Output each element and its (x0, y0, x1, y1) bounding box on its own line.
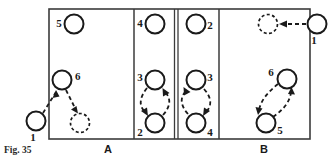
figure-canvas: 5 6 1 4 3 2 (0, 0, 331, 162)
panel-b-group: 1 6 5 (256, 15, 327, 136)
node-a-6[interactable] (53, 71, 72, 90)
node-b-1-label: 1 (311, 34, 317, 46)
arrow-b-6-to-5 (259, 84, 278, 110)
node-b-1-outside[interactable] (308, 15, 327, 34)
node-p2-4[interactable] (146, 15, 165, 34)
node-a-1-outside[interactable] (27, 112, 46, 131)
arrow-a-6-to-target-head (71, 106, 78, 114)
node-a-5[interactable] (65, 15, 84, 34)
panel-a-group: 5 6 1 (27, 15, 90, 143)
figure-page: 5 6 1 4 3 2 (0, 0, 331, 162)
arrow-b-1-to-target-head (279, 21, 287, 28)
panel-label-a: A (104, 143, 112, 155)
panel-3-group: 2 3 4 (182, 15, 214, 138)
node-b-6-label: 6 (268, 66, 274, 78)
node-p2-4-label: 4 (137, 17, 143, 29)
node-p3-3[interactable] (187, 71, 206, 90)
arrow-a-1-to-6-head (53, 90, 60, 98)
node-a-target-ghost[interactable] (71, 114, 90, 133)
node-p3-3-label: 3 (207, 71, 213, 83)
arrow-p3-4-to-3-head (184, 87, 191, 96)
arrow-a-6-to-target (66, 90, 76, 110)
node-a-6-label: 6 (75, 70, 81, 82)
panel-2-group: 4 3 2 (137, 15, 169, 138)
figure-caption: Fig. 35 (4, 145, 32, 155)
node-b-5-label: 5 (277, 124, 283, 136)
node-b-6[interactable] (278, 70, 297, 89)
arrow-b-5-to-6 (273, 92, 291, 117)
node-p2-2-label: 2 (137, 126, 143, 138)
node-p3-4-label: 4 (207, 126, 213, 138)
node-p2-3[interactable] (146, 71, 165, 90)
node-p3-2-label: 2 (207, 19, 213, 31)
node-a-1-label: 1 (30, 131, 36, 143)
node-p2-2[interactable] (146, 114, 165, 133)
node-p3-4[interactable] (187, 114, 206, 133)
node-p2-3-label: 3 (137, 71, 143, 83)
node-a-5-label: 5 (56, 17, 62, 29)
panel-label-b: B (260, 143, 268, 155)
node-b-target-ghost[interactable] (259, 15, 278, 34)
node-p3-2[interactable] (187, 15, 206, 34)
